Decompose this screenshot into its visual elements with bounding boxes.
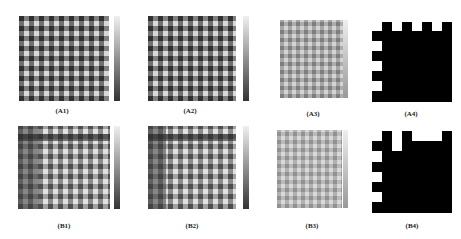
caption-a1: (A1) <box>42 107 82 115</box>
caption-b2: (B2) <box>172 222 212 230</box>
heatmap-a1 <box>19 16 109 101</box>
mask-a4 <box>372 22 452 102</box>
colorbar-b1 <box>114 126 120 209</box>
heatmap-a3 <box>280 20 343 98</box>
colorbar-a2 <box>243 16 249 101</box>
caption-a2: (A2) <box>170 107 210 115</box>
colorbar-a3 <box>343 20 348 98</box>
heatmap-b3 <box>277 130 342 208</box>
caption-b3: (B3) <box>292 222 332 230</box>
heatmap-b1 <box>18 126 110 209</box>
caption-a3: (A3) <box>293 110 333 118</box>
heatmap-a2 <box>148 16 236 101</box>
caption-b1: (B1) <box>44 222 84 230</box>
caption-a4: (A4) <box>391 110 431 118</box>
mask-b4 <box>372 131 452 213</box>
heatmap-b2 <box>148 126 236 209</box>
colorbar-b2 <box>243 126 249 209</box>
colorbar-a1 <box>114 16 120 101</box>
colorbar-b3 <box>343 130 348 208</box>
caption-b4: (B4) <box>392 222 432 230</box>
